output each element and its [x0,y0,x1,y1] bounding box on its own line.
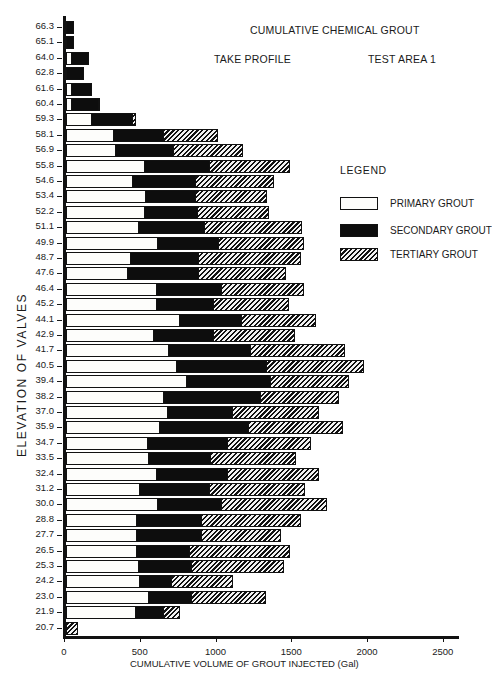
bar-segment-primary [66,421,160,434]
y-tick-label: 38.2 [18,390,54,401]
y-tick-mark [57,566,62,567]
y-tick-mark [57,104,62,105]
y-tick-label: 51.1 [18,220,54,231]
bar-segment-primary [66,468,157,481]
y-tick-mark [57,258,62,259]
y-tick-mark [57,73,62,74]
y-tick-mark [57,166,62,167]
y-tick-mark [57,150,62,151]
y-tick-label: 60.4 [18,97,54,108]
bar-segment-primary [66,452,149,465]
chart-subtitle-right: TEST AREA 1 [368,53,436,65]
bar-segment-primary [66,545,137,558]
y-tick-label: 34.7 [18,436,54,447]
y-tick-label: 45.2 [18,297,54,308]
y-tick-mark [57,474,62,475]
y-tick-label: 64.0 [18,51,54,62]
y-tick-mark [57,520,62,521]
y-tick-label: 44.1 [18,313,54,324]
y-tick-label: 65.1 [18,35,54,46]
bar-segment-primary [66,437,148,450]
y-tick-label: 35.9 [18,420,54,431]
legend-title: LEGEND [340,164,387,176]
y-tick-label: 61.6 [18,82,54,93]
y-tick-mark [57,196,62,197]
x-tick-label: 0 [61,646,66,657]
y-tick-label: 58.1 [18,128,54,139]
y-tick-label: 46.4 [18,282,54,293]
y-tick-label: 24.2 [18,574,54,585]
x-tick-label: 500 [132,646,148,657]
bar-segment-secondary [66,67,84,80]
legend-label-secondary: SECONDARY GROUT [390,225,492,236]
y-tick-label: 49.9 [18,236,54,247]
bar-segment-primary [66,283,157,296]
y-tick-label: 28.8 [18,513,54,524]
x-tick-mark [367,638,368,642]
bar-segment-primary [66,129,114,142]
y-tick-label: 21.9 [18,605,54,616]
y-tick-label: 39.4 [18,374,54,385]
bar-segment-tertiary [66,622,78,635]
x-tick-label: 2000 [356,646,377,657]
bar-segment-primary [66,160,145,173]
bar-segment-primary [66,298,157,311]
x-axis-line [63,636,459,639]
y-tick-mark [57,89,62,90]
y-axis-line [63,16,66,638]
y-tick-mark [57,628,62,629]
bar-segment-primary [66,190,146,203]
bar-segment-primary [66,206,145,219]
bar-segment-primary [66,560,139,573]
legend-label-primary: PRIMARY GROUT [390,198,474,209]
y-tick-label: 25.3 [18,559,54,570]
bar-segment-primary [66,591,149,604]
y-tick-label: 33.5 [18,451,54,462]
x-axis-title: CUMULATIVE VOLUME OF GROUT INJECTED (Gal… [130,658,359,669]
y-tick-label: 52.2 [18,205,54,216]
bar-segment-primary [66,344,169,357]
y-tick-mark [57,304,62,305]
y-tick-label: 53.4 [18,189,54,200]
y-tick-mark [57,443,62,444]
y-tick-mark [57,551,62,552]
y-tick-mark [57,427,62,428]
bar-segment-secondary [66,36,74,49]
legend-label-tertiary: TERTIARY GROUT [390,249,478,260]
y-tick-mark [57,320,62,321]
bar-segment-primary [66,514,137,527]
y-tick-label: 56.9 [18,143,54,154]
bar-segment-primary [66,52,72,65]
bar-segment-primary [66,221,139,234]
y-tick-mark [57,412,62,413]
y-tick-mark [57,212,62,213]
bar-segment-primary [66,237,158,250]
y-tick-mark [57,458,62,459]
bar-segment-primary [66,175,133,188]
y-tick-mark [57,243,62,244]
y-tick-label: 31.2 [18,482,54,493]
y-tick-label: 26.5 [18,544,54,555]
y-tick-mark [57,350,62,351]
y-tick-label: 42.9 [18,328,54,339]
y-tick-mark [57,27,62,28]
x-tick-mark [64,638,65,642]
y-tick-mark [57,381,62,382]
x-tick-label: 1000 [205,646,226,657]
bar-segment-primary [66,575,140,588]
y-tick-label: 30.0 [18,497,54,508]
y-tick-label: 66.3 [18,20,54,31]
y-tick-label: 32.4 [18,467,54,478]
bar-segment-secondary [66,21,74,34]
y-tick-mark [57,181,62,182]
bar-segment-primary [66,375,187,388]
y-tick-mark [57,581,62,582]
y-tick-mark [57,335,62,336]
bar-segment-primary [66,144,116,157]
y-tick-label: 40.5 [18,359,54,370]
x-tick-mark [443,638,444,642]
y-tick-mark [57,597,62,598]
y-tick-mark [57,227,62,228]
y-tick-label: 59.3 [18,112,54,123]
y-tick-label: 47.6 [18,266,54,277]
